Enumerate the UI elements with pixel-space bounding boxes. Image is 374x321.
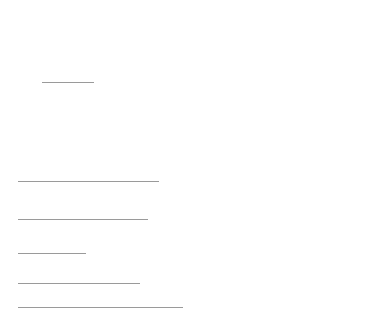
leader-line-15-19	[18, 181, 159, 182]
leader-line-20-plus	[42, 82, 94, 83]
leader-line-5-9	[18, 253, 86, 254]
pictogram-chart	[0, 0, 374, 321]
leader-line-10-14	[18, 219, 148, 220]
leader-line-0-1	[18, 307, 183, 308]
leader-line-1-4	[18, 283, 140, 284]
